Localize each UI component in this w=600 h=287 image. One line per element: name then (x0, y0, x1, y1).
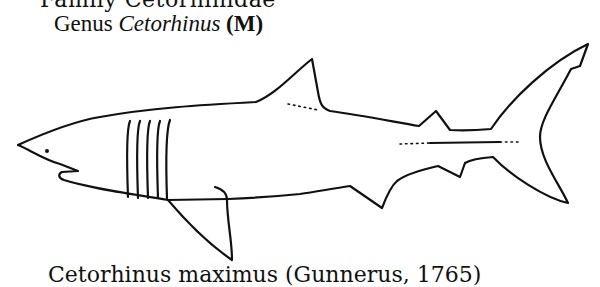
dorsal-dots (288, 104, 318, 110)
caudal-keel (430, 142, 500, 143)
head-underside (18, 145, 228, 200)
species-caption: Cetorhinus maximus (Gunnerus, 1765) (48, 262, 481, 287)
eye-icon (45, 149, 49, 153)
dorsal-outline (18, 44, 588, 208)
gill-slits (127, 120, 170, 199)
pectoral-fin (168, 187, 232, 260)
